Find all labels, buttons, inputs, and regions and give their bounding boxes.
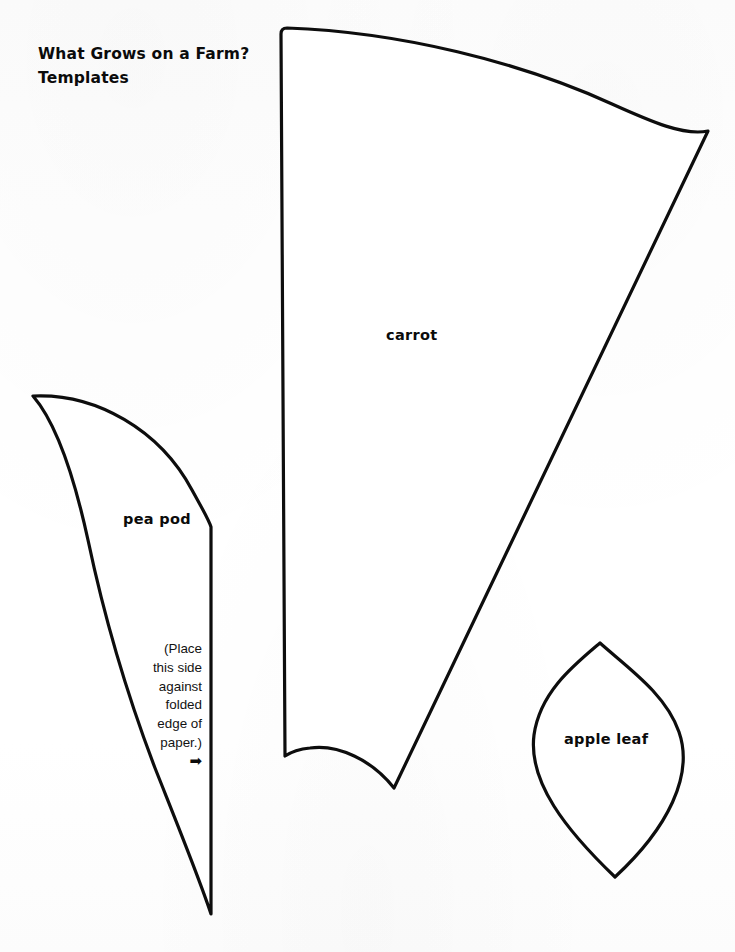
- apple-leaf-outline: [533, 643, 683, 877]
- fold-note-line-5: edge of: [128, 715, 202, 734]
- template-shapes-layer: [0, 0, 735, 952]
- right-arrow-icon: ➡: [128, 754, 202, 769]
- template-worksheet-page: What Grows on a Farm? Templates pea pod …: [0, 0, 735, 952]
- fold-note-line-3: against: [128, 678, 202, 697]
- carrot-outline: [281, 28, 708, 788]
- fold-note-line-2: this side: [128, 659, 202, 678]
- fold-note-line-6: paper.): [128, 734, 202, 753]
- page-title-line-2: Templates: [38, 66, 249, 90]
- carrot-label: carrot: [386, 327, 437, 343]
- page-title-line-1: What Grows on a Farm?: [38, 42, 249, 66]
- fold-note-line-4: folded: [128, 696, 202, 715]
- page-title: What Grows on a Farm? Templates: [38, 42, 249, 90]
- fold-edge-instruction: (Place this side against folded edge of …: [128, 640, 202, 753]
- pea-pod-label: pea pod: [123, 511, 191, 527]
- fold-note-line-1: (Place: [128, 640, 202, 659]
- apple-leaf-label: apple leaf: [564, 731, 648, 747]
